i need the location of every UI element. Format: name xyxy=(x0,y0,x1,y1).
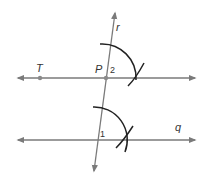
label-q: q xyxy=(175,121,182,133)
label-p: P xyxy=(95,63,103,75)
point-p xyxy=(104,76,108,80)
lower-crossing-arc xyxy=(116,126,133,148)
geometry-diagram: r T P 2 1 q xyxy=(0,0,207,177)
transversal-r xyxy=(94,13,115,171)
point-t xyxy=(38,76,42,80)
label-angle-1: 1 xyxy=(100,129,105,139)
upper-construction-arc xyxy=(100,44,136,80)
label-t: T xyxy=(36,62,44,74)
lower-construction-arc xyxy=(93,107,127,152)
label-angle-2: 2 xyxy=(110,65,115,75)
label-r: r xyxy=(116,21,121,33)
